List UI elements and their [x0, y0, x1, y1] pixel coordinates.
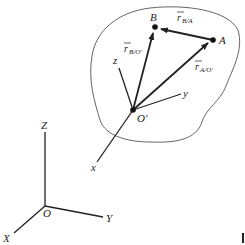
x-axis	[97, 110, 133, 162]
svg-text:B/O': B/O'	[129, 48, 142, 56]
svg-text:r: r	[195, 61, 199, 72]
z-axis	[119, 68, 133, 110]
vector-r-B-A	[161, 29, 213, 40]
label-r-B-O: r B/O'	[124, 43, 142, 56]
svg-text:r: r	[124, 43, 128, 54]
label-B: B	[150, 11, 157, 23]
svg-text:A/O': A/O'	[199, 66, 213, 74]
point-B	[152, 24, 158, 30]
point-O-prime	[130, 107, 136, 113]
vector-r-A-O	[133, 43, 208, 110]
svg-text:B/A: B/A	[182, 17, 193, 25]
label-O-prime: O'	[137, 112, 148, 124]
edge-mark	[242, 233, 244, 243]
y-axis	[133, 94, 181, 110]
vector-r-B-O	[133, 33, 153, 110]
svg-text:r: r	[177, 12, 181, 23]
X-axis	[14, 206, 45, 233]
label-r-A-O: r A/O'	[195, 61, 213, 74]
label-O: O	[43, 207, 51, 219]
Y-axis	[45, 206, 103, 217]
label-X: X	[2, 232, 11, 244]
point-A	[210, 37, 216, 43]
label-x: x	[90, 161, 96, 173]
rigid-body-outline	[91, 7, 240, 142]
label-r-B-A: r B/A	[177, 12, 193, 25]
label-z: z	[112, 54, 118, 66]
fixed-frame	[14, 132, 103, 233]
label-A: A	[218, 34, 226, 46]
rigid-body-diagram: B A O' z y x Z Y X O r B/A r B/O' r A/O'	[0, 0, 245, 245]
label-y: y	[182, 87, 188, 99]
label-Z: Z	[41, 119, 48, 131]
label-Y: Y	[106, 212, 114, 224]
